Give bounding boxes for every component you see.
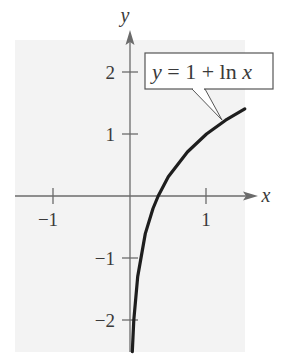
y-axis-label: y xyxy=(119,4,130,27)
plot-canvas: y = 1 + ln x y x −1 1 2 1 −1 −2 xyxy=(0,0,285,363)
y-tick-label-neg1: −1 xyxy=(95,248,115,269)
x-tick-label-neg1: −1 xyxy=(38,209,58,230)
x-axis-label: x xyxy=(261,184,271,206)
x-tick-label-1: 1 xyxy=(201,209,211,230)
y-tick-label-2: 2 xyxy=(106,62,116,83)
y-tick-label-neg2: −2 xyxy=(95,310,115,331)
y-tick-label-1: 1 xyxy=(106,124,116,145)
callout-label: y = 1 + ln x xyxy=(150,59,252,84)
